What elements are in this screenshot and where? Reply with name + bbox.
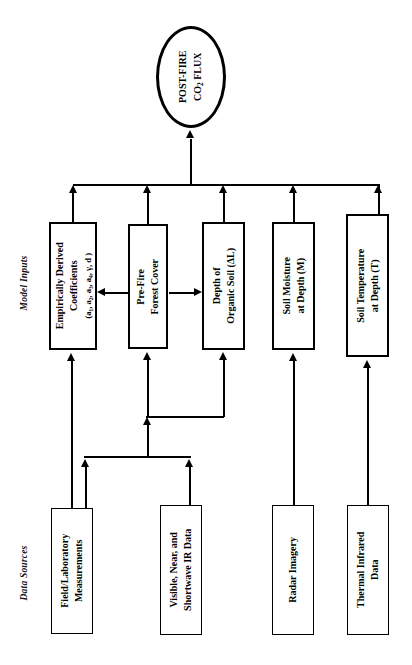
wire-forest-cover-to-coefficients [105,292,128,294]
arrow-into-bus-forest-cover [143,185,151,193]
arrow-field-lab-to-coefficients [67,353,75,361]
wire-split-to-forest-cover [147,360,149,417]
section-label-data-sources: Data Sources [19,538,29,608]
diagram-canvas: POST-FIRE CO2 FLUX Model Inputs Data Sou… [0,0,412,665]
radar-line1: Radar Imagery [287,537,298,603]
arrow-forest-cover-to-coefficients [97,288,105,296]
visible-ir-line2: Shortwave IR Data [182,529,193,611]
forest-cover-line1: Pre-Fire [135,269,146,305]
node-pre-fire-forest-cover: Pre-Fire Forest Cover [128,224,168,349]
soil-moisture-line1: Soil Moisture [281,257,292,314]
wire-bus-to-output [190,139,192,185]
node-empirically-derived-coefficients: Empirically Derived Coefficients (a₁, a₂… [49,222,97,350]
soil-temperature-line1: Soil Temperature [355,249,366,323]
wire-split-to-organic-soil [223,360,225,417]
organic-soil-line2: Organic Soil (ΔL) [225,248,236,324]
arrow-into-bus-soil-temperature [374,185,382,193]
node-label-forest-cover: Pre-Fire Forest Cover [134,259,162,315]
node-label-coefficients: Empirically Derived Coefficients (a₁, a₂… [52,243,93,330]
node-field-laboratory-measurements: Field/Laboratory Measurements [51,508,93,634]
wire-into-organic-soil-bus [223,193,225,222]
node-label-field-lab: Field/Laboratory Measurements [58,534,86,608]
field-lab-line2: Measurements [73,540,84,603]
node-label-soil-temperature: Soil Temperature at Depth (T) [354,249,382,323]
wire-merge-to-split [147,425,149,457]
wire-visible-ir-to-merge [189,467,191,505]
forest-cover-line2: Forest Cover [149,259,160,315]
wire-field-lab-to-merge [85,467,87,508]
wire-data-source-merge-bar [84,456,191,458]
coefficients-line1: Empirically Derived [53,243,64,330]
arrow-thermal-ir-to-soil-temperature [363,360,371,368]
output-node-subscript: 2 [195,83,204,87]
arrow-forest-cover-to-organic-soil [194,288,202,296]
organic-soil-line1: Depth of [211,268,222,305]
wire-split-bar-forest-soil [146,416,224,418]
arrow-into-bus-soil-moisture [289,185,297,193]
node-label-visible-ir: Visible, Near, and Shortwave IR Data [167,529,195,611]
arrow-into-bus-coefficients [69,185,77,193]
soil-moisture-line2: at Depth (M) [295,258,306,314]
node-label-thermal-ir: Thermal Infrared Data [354,532,382,608]
thermal-ir-line2: Data [369,560,380,581]
node-label-radar: Radar Imagery [286,537,300,603]
coefficients-line2: Coefficients [67,261,78,312]
wire-forest-cover-to-organic-soil [169,292,194,294]
coefficients-line3: (a₁, a₂, a₃, a₄, γ, d ) [82,253,92,319]
node-soil-temperature-at-depth: Soil Temperature at Depth (T) [346,214,389,357]
node-thermal-infrared-data: Thermal Infrared Data [347,505,389,635]
node-label-organic-soil-depth: Depth of Organic Soil (ΔL) [210,248,238,324]
visible-ir-line1: Visible, Near, and [168,532,179,607]
arrow-field-lab-to-merge [81,459,89,467]
output-node-label: POST-FIRE CO2 FLUX [176,51,206,103]
wire-into-coefficients [72,193,74,222]
output-node-post-fire-co2-flux: POST-FIRE CO2 FLUX [156,26,226,128]
arrow-bus-to-output [186,130,194,138]
wire-field-lab-to-coefficients [71,361,73,508]
node-soil-moisture-at-depth: Soil Moisture at Depth (M) [272,222,315,350]
output-node-line2: CO2 FLUX [192,53,203,101]
field-lab-line1: Field/Laboratory [59,534,70,608]
node-visible-near-shortwave-ir-data: Visible, Near, and Shortwave IR Data [160,505,202,635]
section-label-model-inputs: Model Inputs [19,251,29,315]
node-label-soil-moisture: Soil Moisture at Depth (M) [280,257,308,314]
wire-thermal-ir-to-soil-temperature [367,368,369,505]
arrow-split-to-forest-cover [143,352,151,360]
arrow-into-bus-organic-soil [219,185,227,193]
wire-into-forest-cover-bus [147,193,149,224]
arrow-radar-to-soil-moisture [289,353,297,361]
thermal-ir-line1: Thermal Infrared [355,532,366,608]
arrow-split-to-organic-soil [219,352,227,360]
wire-radar-to-soil-moisture [293,361,295,505]
node-radar-imagery: Radar Imagery [272,505,314,635]
output-node-line1: POST-FIRE [177,51,188,103]
soil-temperature-line2: at Depth (T) [369,259,380,312]
wire-into-soil-moisture-bus [293,193,295,222]
arrow-visible-ir-to-merge [185,459,193,467]
node-depth-of-organic-soil: Depth of Organic Soil (ΔL) [202,222,245,350]
